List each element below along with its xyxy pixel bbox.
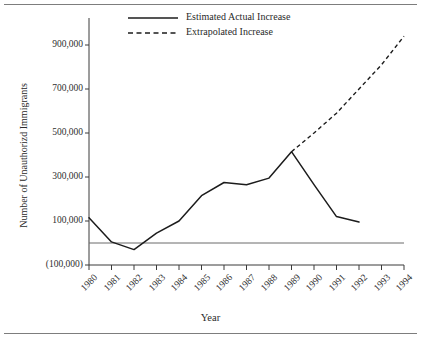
series-dashed xyxy=(292,36,405,152)
x-axis-title: Year xyxy=(0,312,421,323)
axes xyxy=(85,18,404,270)
legend-entry-label: Extrapolated Increase xyxy=(186,27,273,37)
y-tick-label: 900,000 xyxy=(11,40,83,50)
data-series xyxy=(89,36,404,249)
chart-figure: 900,000700,000500,000300,000100,000(100,… xyxy=(0,0,421,343)
series-solid xyxy=(89,152,359,250)
y-axis-title: Number of Unauthorizd Immigrants xyxy=(18,56,29,256)
legend-line-samples xyxy=(128,18,178,33)
y-tick-label: (100,000) xyxy=(11,260,83,270)
legend-entry-label: Estimated Actual Increase xyxy=(186,12,290,22)
